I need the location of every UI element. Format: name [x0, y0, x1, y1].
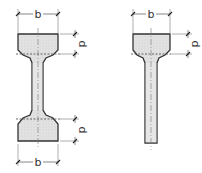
- bottom-width-label: b: [35, 156, 42, 169]
- cross-section-diagram: b d d b: [0, 0, 202, 173]
- t-width-dimension: b: [131, 8, 172, 33]
- t-section-figure: b d: [131, 8, 202, 150]
- bottom-depth-dimension: d: [60, 115, 89, 145]
- bottom-depth-label: d: [76, 127, 89, 134]
- i-section-figure: b d d b: [16, 8, 89, 169]
- top-width-label: b: [35, 8, 42, 21]
- top-depth-dimension: d: [60, 30, 89, 58]
- t-width-label: b: [148, 8, 155, 21]
- t-depth-dimension: d: [172, 30, 202, 58]
- bottom-width-dimension: b: [16, 144, 60, 169]
- t-depth-label: d: [189, 41, 202, 48]
- top-depth-label: d: [76, 41, 89, 48]
- i-section-web: [33, 63, 43, 110]
